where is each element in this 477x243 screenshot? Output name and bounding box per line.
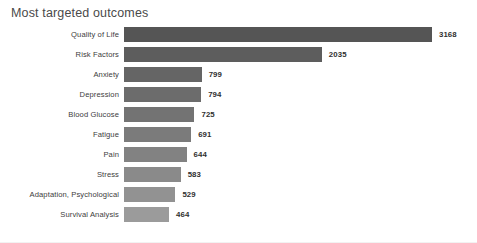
bar-fill <box>124 207 169 222</box>
bar-value-label: 644 <box>194 147 207 162</box>
bar-track: 3168 <box>124 27 477 42</box>
bar-value-label: 794 <box>208 87 221 102</box>
bar-value-label: 3168 <box>439 27 457 42</box>
chart-title: Most targeted outcomes <box>11 6 148 20</box>
bar-value-label: 464 <box>176 207 189 222</box>
bar-row: Quality of Life3168 <box>0 27 477 47</box>
bar-category-label: Quality of Life <box>71 27 119 42</box>
bar-row: Adaptation, Psychological529 <box>0 187 477 207</box>
bar-fill <box>124 27 432 42</box>
bar-category-label: Pain <box>103 147 119 162</box>
bar-track: 529 <box>124 187 477 202</box>
bar-track: 725 <box>124 107 477 122</box>
bar-row: Anxiety799 <box>0 67 477 87</box>
bar-row: Stress583 <box>0 167 477 187</box>
bar-row: Blood Glucose725 <box>0 107 477 127</box>
bar-value-label: 583 <box>188 167 201 182</box>
bar-fill <box>124 107 194 122</box>
bar-fill <box>124 187 175 202</box>
bar-category-label: Depression <box>80 87 119 102</box>
bar-fill <box>124 47 322 62</box>
bar-row: Pain644 <box>0 147 477 167</box>
bar-category-label: Anxiety <box>93 67 119 82</box>
bar-chart: Most targeted outcomes Quality of Life31… <box>0 0 477 243</box>
bar-fill <box>124 87 201 102</box>
bar-fill <box>124 167 181 182</box>
bar-value-label: 2035 <box>329 47 347 62</box>
bar-value-label: 725 <box>201 107 214 122</box>
bar-row: Survival Analysis464 <box>0 207 477 227</box>
bar-track: 794 <box>124 87 477 102</box>
chart-plot-area: Quality of Life3168Risk Factors2035Anxie… <box>0 27 477 227</box>
bar-category-label: Fatigue <box>93 127 119 142</box>
bar-fill <box>124 147 187 162</box>
bar-category-label: Stress <box>97 167 119 182</box>
bar-category-label: Adaptation, Psychological <box>30 187 119 202</box>
bar-track: 691 <box>124 127 477 142</box>
bar-category-label: Blood Glucose <box>68 107 119 122</box>
bar-row: Depression794 <box>0 87 477 107</box>
bar-value-label: 691 <box>198 127 211 142</box>
bar-track: 644 <box>124 147 477 162</box>
bar-row: Risk Factors2035 <box>0 47 477 67</box>
bar-value-label: 799 <box>209 67 222 82</box>
bar-track: 583 <box>124 167 477 182</box>
bar-fill <box>124 127 191 142</box>
bar-fill <box>124 67 202 82</box>
bar-category-label: Survival Analysis <box>60 207 119 222</box>
bar-track: 464 <box>124 207 477 222</box>
bar-track: 2035 <box>124 47 477 62</box>
bar-row: Fatigue691 <box>0 127 477 147</box>
bar-track: 799 <box>124 67 477 82</box>
bar-value-label: 529 <box>182 187 195 202</box>
bar-category-label: Risk Factors <box>76 47 119 62</box>
